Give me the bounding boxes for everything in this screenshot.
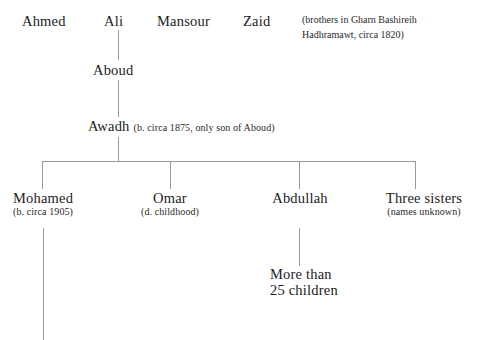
connector-mohamed-to-descendants bbox=[43, 228, 44, 340]
node-omar: Omar (d. childhood) bbox=[141, 190, 199, 217]
node-ali: Ali bbox=[104, 12, 123, 30]
node-three-sisters: Three sisters (names unknown) bbox=[386, 190, 462, 217]
node-omar-label: Omar bbox=[141, 190, 199, 206]
connector-abdullah-to-children bbox=[299, 228, 300, 266]
node-three-sisters-label: Three sisters bbox=[386, 190, 462, 206]
node-ahmed-label: Ahmed bbox=[22, 13, 66, 29]
node-abdullah: Abdullah bbox=[272, 190, 328, 206]
node-mansour: Mansour bbox=[157, 12, 210, 30]
abdullah-children-line-2: 25 children bbox=[270, 282, 338, 298]
family-tree-diagram: Ahmed Ali Mansour Zaid (brothers in Ghar… bbox=[0, 0, 479, 340]
node-aboud-label: Aboud bbox=[93, 62, 133, 78]
connector-aboud-to-awadh bbox=[118, 80, 119, 117]
brothers-annotation: (brothers in Gharn Bashireih Hadhramawt,… bbox=[302, 13, 417, 42]
node-ahmed: Ahmed bbox=[22, 12, 66, 30]
node-mansour-label: Mansour bbox=[157, 13, 210, 29]
node-omar-detail: (d. childhood) bbox=[141, 206, 199, 217]
node-abdullah-children: More than 25 children bbox=[270, 266, 338, 298]
node-awadh-label: Awadh bbox=[88, 118, 130, 134]
node-mohamed: Mohamed (b. circa 1905) bbox=[13, 190, 73, 217]
node-mohamed-label: Mohamed bbox=[13, 190, 73, 206]
node-awadh-detail: (b. circa 1875, only son of Aboud) bbox=[134, 122, 275, 133]
brothers-annotation-line-2: Hadhramawt, circa 1820) bbox=[302, 28, 417, 43]
node-three-sisters-detail: (names unknown) bbox=[386, 206, 462, 217]
connector-awadh-to-children-bar bbox=[118, 137, 119, 162]
node-aboud: Aboud bbox=[93, 61, 133, 79]
connector-ali-to-aboud bbox=[118, 30, 119, 60]
brothers-annotation-line-1: (brothers in Gharn Bashireih bbox=[302, 13, 417, 28]
sibling-bar-generation-4 bbox=[42, 161, 416, 162]
node-awadh: Awadh (b. circa 1875, only son of Aboud) bbox=[88, 117, 275, 135]
connector-bar-to-three-sisters bbox=[415, 161, 416, 189]
node-zaid: Zaid bbox=[243, 12, 270, 30]
connector-bar-to-mohamed bbox=[42, 161, 43, 189]
abdullah-children-line-1: More than bbox=[270, 266, 338, 282]
node-zaid-label: Zaid bbox=[243, 13, 270, 29]
node-ali-label: Ali bbox=[104, 13, 123, 29]
connector-bar-to-omar bbox=[170, 161, 171, 189]
node-mohamed-detail: (b. circa 1905) bbox=[13, 206, 73, 217]
node-abdullah-label: Abdullah bbox=[272, 190, 328, 206]
connector-bar-to-abdullah bbox=[299, 161, 300, 189]
